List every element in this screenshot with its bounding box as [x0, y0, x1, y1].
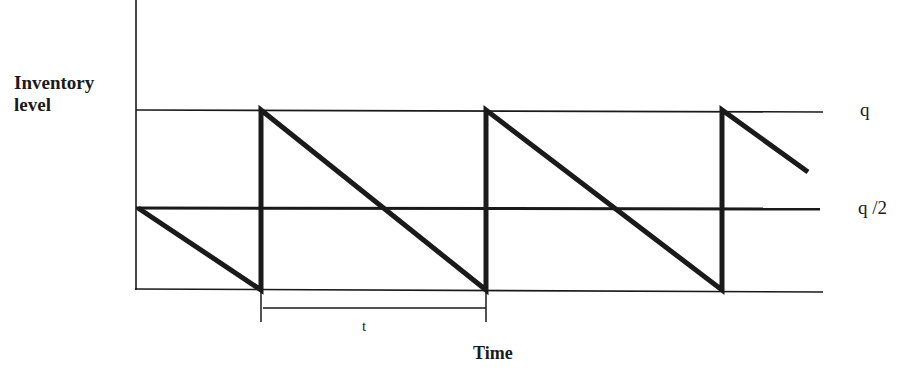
- x-axis-label: Time: [473, 343, 513, 364]
- y-axis-label-line1: Inventory: [14, 72, 94, 94]
- cycle-time-label: t: [362, 318, 366, 335]
- y-axis-label-line2: level: [14, 94, 94, 116]
- inventory-sawtooth-diagram: [0, 0, 906, 380]
- average-level-line: [136, 208, 820, 209]
- max-level-label: q: [860, 99, 870, 121]
- inventory-sawtooth-line: [138, 110, 808, 290]
- y-axis-label: Inventory level: [14, 72, 94, 116]
- average-level-label: q /2: [858, 197, 887, 219]
